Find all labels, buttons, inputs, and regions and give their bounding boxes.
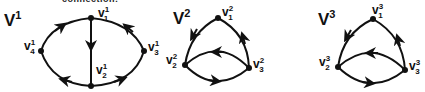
label-v2-3: v23 <box>253 56 265 74</box>
edge-v3-v2 <box>185 51 249 68</box>
arrow-v2-v3-icon <box>362 82 370 83</box>
vertex-v3-3 <box>402 67 408 73</box>
edge-v1-v2 <box>338 19 373 67</box>
graph-v2: V2 v21 v22 v23 <box>166 4 265 81</box>
edge-v3-v2 <box>338 53 405 70</box>
graph-v3-title: V3 <box>318 8 335 29</box>
edge-v3-v1 <box>91 18 144 51</box>
label-v2-2: v22 <box>166 52 178 70</box>
graph-v3: V3 v31 v32 v33 <box>318 2 421 83</box>
vertex-v2-3 <box>246 65 252 71</box>
label-v1-2: v12 <box>96 62 108 80</box>
graph-v2-title: V2 <box>173 7 190 28</box>
edge-v1-v2 <box>185 18 218 65</box>
arrow-v2-v3-icon <box>114 79 122 82</box>
graph-v1: V1 v11 v12 v13 v14 <box>4 5 160 89</box>
vertex-v2-1 <box>215 15 221 21</box>
vertex-v2-2 <box>182 62 188 68</box>
graph-diagram: V1 v11 v12 v13 v14 V2 <box>0 0 425 92</box>
label-v3-3: v33 <box>409 58 421 76</box>
label-v1-1: v11 <box>98 5 110 23</box>
edge-v4-v1 <box>41 18 91 51</box>
graph-v1-title: V1 <box>4 9 21 30</box>
label-v2-1: v21 <box>222 4 234 22</box>
vertex-v1-1 <box>88 15 94 21</box>
arrow-v2-v4-icon <box>64 80 72 82</box>
vertex-v3-2 <box>335 64 341 70</box>
label-v3-2: v32 <box>319 54 331 72</box>
edge-v2-v3 <box>185 65 249 81</box>
label-v1-3: v13 <box>148 39 160 57</box>
vertex-v1-3 <box>141 48 147 54</box>
vertex-v1-4 <box>38 48 44 54</box>
arrow-v2-v3-icon <box>208 80 216 81</box>
vertex-v1-2 <box>88 83 94 89</box>
label-v1-4: v14 <box>24 38 36 56</box>
edge-v2-v3 <box>338 67 405 83</box>
